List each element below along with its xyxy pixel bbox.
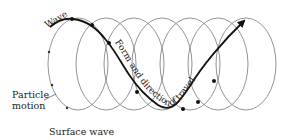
caption: Surface wave [49,126,114,137]
particle-motion-label: Particle motion [12,89,49,111]
particle-motion-line2: motion [12,100,49,111]
form-and-direction-of-travel-label: Form and direction of travel [113,38,197,108]
label-layer: Form and direction of travel [0,0,295,140]
particle-motion-line1: Particle [12,89,49,100]
